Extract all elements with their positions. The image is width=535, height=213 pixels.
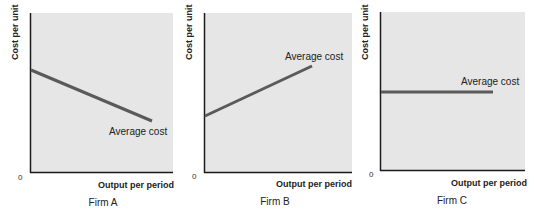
curve-label: Average cost xyxy=(285,51,343,62)
chart-title: Firm A xyxy=(89,197,118,208)
curve-label: Average cost xyxy=(109,126,167,137)
y-axis-label: Cost per unit xyxy=(360,4,370,60)
y-axis-label: Cost per unit xyxy=(10,4,20,60)
chart-firm-a: Average cost Cost per unit 0 Output per … xyxy=(10,4,174,208)
x-axis-label: Output per period xyxy=(276,179,352,189)
plot-area xyxy=(31,13,173,172)
origin-label: 0 xyxy=(369,170,374,179)
chart-title: Firm C xyxy=(437,195,467,206)
x-axis-label: Output per period xyxy=(451,178,527,188)
three-cost-charts: Average cost Cost per unit 0 Output per … xyxy=(0,0,535,213)
chart-title: Firm B xyxy=(260,196,290,207)
origin-label: 0 xyxy=(18,173,23,182)
chart-firm-b: Average cost Cost per unit 0 Output per … xyxy=(184,4,352,207)
origin-label: 0 xyxy=(192,172,197,181)
x-axis-label: Output per period xyxy=(98,180,174,190)
chart-firm-c: Average cost Cost per unit 0 Output per … xyxy=(360,4,527,206)
y-axis-label: Cost per unit xyxy=(184,4,194,60)
curve-label: Average cost xyxy=(461,76,519,87)
plot-area xyxy=(205,13,352,172)
